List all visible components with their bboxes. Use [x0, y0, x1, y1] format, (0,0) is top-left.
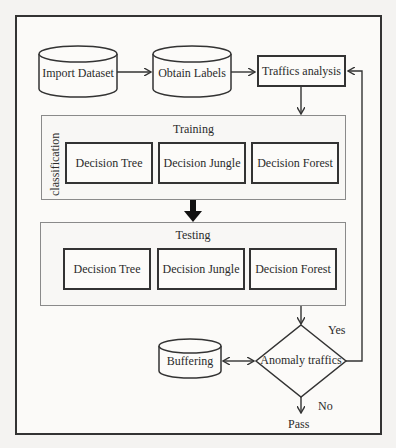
testing-decision-forest-box: Decision Forest: [249, 248, 337, 290]
no-label: No: [318, 399, 333, 414]
testing-title: Testing: [41, 228, 345, 243]
buffering-label: Buffering: [159, 351, 221, 371]
testing-decision-tree-label: Decision Tree: [74, 262, 141, 277]
yes-label: Yes: [328, 323, 345, 338]
classification-label: classification: [48, 133, 63, 196]
traffics-analysis-label: Traffics analysis: [262, 64, 341, 79]
import-dataset-label: Import Dataset: [39, 62, 117, 84]
training-decision-forest-label: Decision Forest: [257, 156, 333, 171]
anomaly-traffics-label: Anomaly traffics: [256, 353, 346, 368]
training-decision-tree-label: Decision Tree: [76, 156, 143, 171]
thick-arrow: [184, 200, 202, 222]
training-decision-forest-box: Decision Forest: [251, 142, 339, 184]
training-decision-jungle-label: Decision Jungle: [164, 156, 241, 171]
traffics-analysis-box: Traffics analysis: [257, 55, 346, 87]
testing-decision-forest-label: Decision Forest: [255, 262, 331, 277]
testing-decision-tree-box: Decision Tree: [63, 248, 151, 290]
training-decision-tree-box: Decision Tree: [65, 142, 153, 184]
training-title: Training: [42, 122, 345, 137]
training-decision-jungle-box: Decision Jungle: [158, 142, 246, 184]
obtain-labels-label: Obtain Labels: [153, 62, 231, 84]
testing-decision-jungle-label: Decision Jungle: [163, 262, 240, 277]
pass-label: Pass: [288, 417, 309, 432]
testing-decision-jungle-box: Decision Jungle: [157, 248, 245, 290]
